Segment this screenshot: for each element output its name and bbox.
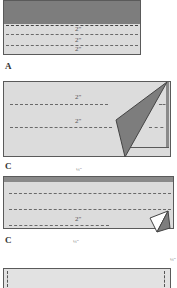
step-c-corner-fold [0,0,175,240]
step-c-label: C [5,236,12,245]
step-d-right-dashes [164,271,165,287]
step-d-left-dashes [7,271,8,287]
step-d-panel [3,268,171,288]
step-d-middle-fraction: ¼" [73,239,79,244]
step-d-top-fraction: ¼" [170,257,176,262]
